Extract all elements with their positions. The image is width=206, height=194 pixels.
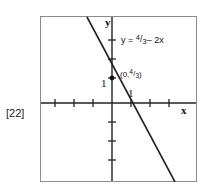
- equation-lhs: y =: [121, 35, 133, 45]
- figure-index-label: [22]: [6, 107, 24, 119]
- y-axis-name-label: y: [105, 17, 111, 28]
- equation-rhs: – 2x: [147, 35, 164, 45]
- intercept-denominator: 3: [135, 72, 139, 79]
- y-intercept-point-marker: [110, 76, 115, 81]
- plot-area: y x 1 1 (0,4/3) y = 4/3– 2x: [40, 16, 197, 182]
- y-axis-tick-label-one: 1: [101, 78, 107, 89]
- x-axis-name-label: x: [181, 105, 187, 116]
- intercept-point-label: (0,4/3): [120, 71, 142, 79]
- equation-fraction: 4/3: [136, 35, 147, 44]
- equation-annotation-label: y = 4/3– 2x: [121, 36, 164, 45]
- intercept-close-paren: ): [139, 70, 142, 79]
- intercept-open-paren: (0,: [120, 70, 129, 79]
- intercept-numerator: 4: [129, 68, 133, 75]
- coordinate-plane-svg: [40, 16, 197, 182]
- graph-figure-screenshot: [22]: [0, 0, 206, 194]
- intercept-fraction: 4/3: [129, 70, 139, 78]
- x-axis-tick-label-one: 1: [128, 88, 134, 99]
- equation-numerator: 4: [136, 33, 140, 42]
- equation-denominator: 3: [143, 37, 147, 46]
